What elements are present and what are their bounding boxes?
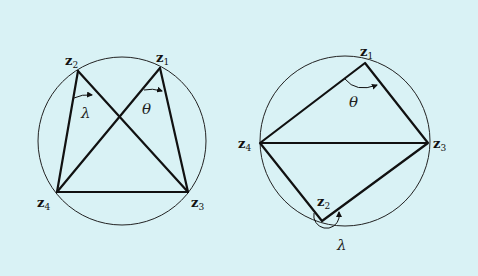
point-z1-label: z1 bbox=[360, 44, 373, 61]
left-circle bbox=[38, 57, 206, 225]
theta-label: θ bbox=[142, 100, 151, 118]
edge-z1-z3 bbox=[160, 68, 188, 192]
left-diagram: λ θ z2 z1 z4 z3 bbox=[37, 50, 206, 225]
lambda-label: λ bbox=[336, 236, 347, 254]
theta-label: θ bbox=[349, 93, 358, 111]
point-z2-label: z2 bbox=[65, 53, 78, 70]
edge-z2-z3 bbox=[78, 71, 188, 192]
point-z4-label: z4 bbox=[238, 136, 251, 153]
point-z2-label: z2 bbox=[317, 194, 330, 211]
theta-arrow-icon bbox=[144, 89, 162, 91]
right-circle bbox=[260, 56, 430, 226]
theta-arrow-icon bbox=[345, 79, 377, 88]
lambda-arrow-icon bbox=[74, 95, 92, 98]
point-z3-label: z3 bbox=[191, 195, 204, 212]
point-z4-label: z4 bbox=[37, 195, 50, 212]
point-z3-label: z3 bbox=[433, 136, 446, 153]
right-diagram: θ λ z1 z4 z3 z2 bbox=[238, 44, 446, 254]
lambda-label: λ bbox=[80, 104, 91, 122]
edge-z1-z4 bbox=[57, 68, 160, 192]
point-z1-label: z1 bbox=[156, 50, 169, 67]
edge-z2-z4 bbox=[57, 71, 78, 192]
diagram-canvas: λ θ z2 z1 z4 z3 θ λ z1 z4 z3 z2 bbox=[0, 0, 478, 276]
